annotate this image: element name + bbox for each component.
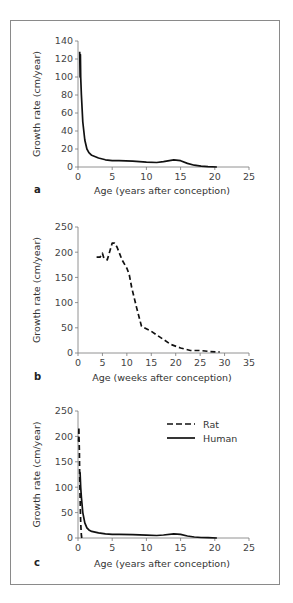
y-tick-label: 20 [61,143,73,154]
panel-label: b [34,371,41,382]
y-tick-label: 0 [67,347,73,358]
x-tick-label: 10 [121,357,133,368]
x-tick-label: 25 [194,357,206,368]
y-tick-label: 60 [61,107,73,118]
y-tick-label: 150 [55,456,73,467]
series-human [80,472,217,538]
legend: RatHuman [167,419,237,444]
y-tick-label: 100 [55,71,73,82]
panel-label: a [34,184,41,195]
x-tick-label: 20 [209,171,221,182]
x-tick-label: 25 [243,171,255,182]
x-tick-label: 5 [99,357,105,368]
x-axis-label: Age (years after conception) [94,185,230,196]
chart-panel-c: 0510152025050100150200250Age (years afte… [31,405,255,569]
legend-human-label: Human [203,433,237,444]
y-tick-label: 50 [61,322,73,333]
y-axis-label: Growth rate (cm/year) [31,421,42,527]
figure: 0510152025020406080100120140Age (years a… [0,0,293,603]
y-tick-label: 40 [61,125,73,136]
y-tick-label: 200 [55,247,73,258]
x-tick-label: 35 [243,357,255,368]
x-tick-label: 10 [140,542,152,553]
x-tick-label: 5 [109,171,115,182]
x-axis-label: Age (years after conception) [94,558,230,569]
chart-panel-a: 0510152025020406080100120140Age (years a… [31,35,255,196]
y-axis-label: Growth rate (cm/year) [31,237,42,343]
x-tick-label: 15 [145,357,157,368]
x-tick-label: 20 [209,542,221,553]
x-tick-label: 20 [170,357,182,368]
x-tick-label: 15 [175,171,187,182]
x-tick-label: 5 [109,542,115,553]
series-human [80,52,217,167]
x-tick-label: 30 [219,357,231,368]
x-tick-label: 0 [75,357,81,368]
x-tick-label: 10 [140,171,152,182]
x-tick-label: 0 [75,171,81,182]
y-tick-label: 80 [61,89,73,100]
y-tick-label: 140 [55,35,73,46]
series-rat [97,243,220,352]
y-tick-label: 100 [55,482,73,493]
panel-label: c [34,557,40,568]
y-tick-label: 0 [67,161,73,172]
x-tick-label: 0 [75,542,81,553]
y-tick-label: 200 [55,431,73,442]
x-tick-label: 15 [175,542,187,553]
legend-rat-label: Rat [203,419,219,430]
y-tick-label: 120 [55,53,73,64]
y-tick-label: 100 [55,297,73,308]
chart-panel-b: 05101520253035050100150200250Age (weeks … [31,221,255,383]
y-tick-label: 50 [61,507,73,518]
y-tick-label: 250 [55,405,73,416]
x-tick-label: 25 [243,542,255,553]
y-axis-label: Growth rate (cm/year) [31,51,42,157]
y-tick-label: 250 [55,221,73,232]
y-tick-label: 150 [55,272,73,283]
x-axis-label: Age (weeks after conception) [92,372,232,383]
y-tick-label: 0 [67,532,73,543]
